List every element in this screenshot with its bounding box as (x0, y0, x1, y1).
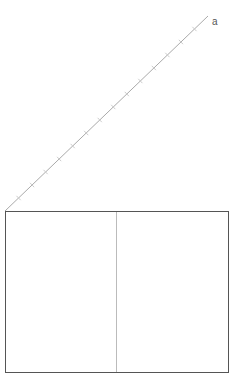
diagram-canvas (0, 0, 238, 376)
axis-label: a (212, 17, 218, 27)
diagonal-axis (5, 16, 208, 211)
axis-line (5, 16, 208, 211)
